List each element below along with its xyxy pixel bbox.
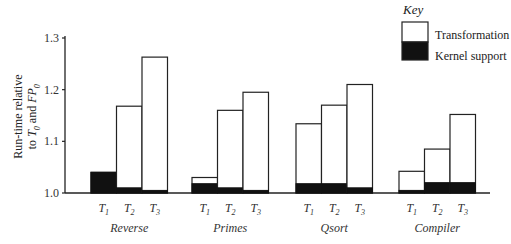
bar-kernel-support <box>425 183 451 193</box>
bar-transformation <box>399 171 425 193</box>
bar-transformation <box>243 92 269 193</box>
y-tick-label: 1.3 <box>44 31 59 45</box>
bar-transformation <box>450 114 476 193</box>
bar-kernel-support <box>322 184 348 193</box>
x-tick-label: T1 <box>303 201 314 217</box>
bar-kernel-support <box>192 184 218 193</box>
group-label: Primes <box>212 221 247 235</box>
x-tick-label: T3 <box>149 201 160 217</box>
legend-swatch-transformation <box>402 22 428 42</box>
bar-kernel-support <box>218 188 244 193</box>
bar-kernel-support <box>450 183 476 193</box>
group-label: Compiler <box>415 221 461 235</box>
bar-kernel-support <box>117 188 143 193</box>
y-tick-label: 1.2 <box>44 83 59 97</box>
x-tick-label: T1 <box>406 201 417 217</box>
x-tick-label: T3 <box>250 201 261 217</box>
group-label: Reverse <box>109 221 149 235</box>
legend-label-kernel: Kernel support <box>435 49 507 64</box>
bar-transformation <box>347 85 373 194</box>
bar-transformation <box>218 110 244 193</box>
y-tick-label: 1.1 <box>44 134 59 148</box>
legend-label-transformation: Transformation <box>435 28 509 43</box>
bar-kernel-support <box>243 190 269 193</box>
y-tick-label: 1.0 <box>44 186 59 200</box>
bar-transformation <box>296 124 322 193</box>
x-tick-label: T2 <box>225 201 236 217</box>
bar-kernel-support <box>347 188 373 193</box>
x-tick-label: T3 <box>457 201 468 217</box>
legend-swatch-kernel <box>402 42 428 60</box>
x-tick-label: T1 <box>98 201 109 217</box>
bar-kernel-support <box>142 190 168 193</box>
bar-transformation <box>117 106 143 193</box>
y-axis-label-line1: Run-time relative <box>11 52 25 182</box>
x-tick-label: T3 <box>354 201 365 217</box>
y-axis-label-line2: to T0 and FP0 <box>25 52 44 182</box>
bar-transformation <box>142 57 168 193</box>
x-tick-label: T2 <box>432 201 443 217</box>
bar-kernel-support <box>399 190 425 193</box>
bar-kernel-support <box>296 184 322 193</box>
y-axis-label: Run-time relative to T0 and FP0 <box>11 52 44 182</box>
x-tick-label: T1 <box>199 201 210 217</box>
bar-kernel-support <box>91 172 117 193</box>
x-tick-label: T2 <box>329 201 340 217</box>
x-tick-label: T2 <box>124 201 135 217</box>
legend-title: Key <box>403 2 423 18</box>
group-label: Qsort <box>321 221 349 235</box>
bar-transformation <box>322 105 348 193</box>
